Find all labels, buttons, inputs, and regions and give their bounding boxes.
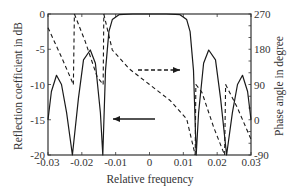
- x-tick-label: 0.01: [174, 156, 193, 168]
- y-tick-label: -10: [30, 79, 45, 91]
- y-tick-label: -5: [36, 43, 46, 55]
- y2-tick-label: 270: [254, 8, 271, 20]
- y-tick-label: 0: [40, 8, 46, 20]
- y2-tick-label: 90: [254, 79, 266, 91]
- chart-svg: -0.03-0.02-0.0100.010.020.030-5-10-15-20…: [0, 0, 300, 189]
- x-tick-label: -0.01: [104, 156, 127, 168]
- y2-tick-label: 180: [254, 43, 271, 55]
- axis-ticks: -0.03-0.02-0.0100.010.020.030-5-10-15-20…: [30, 8, 271, 168]
- x-axis-title: Relative frequency: [106, 173, 193, 186]
- y2-tick-label: -90: [254, 149, 269, 161]
- y-axis-title: Reflection coefficient in dB: [12, 22, 24, 150]
- axis-arrows: [113, 70, 180, 119]
- x-tick-label: 0.02: [208, 156, 227, 168]
- x-tick-label: 0: [147, 156, 153, 168]
- y-tick-label: -20: [30, 149, 45, 161]
- y2-tick-label: 0: [254, 114, 260, 126]
- y2-axis-title: Phase angle in degree: [273, 36, 286, 136]
- y-tick-label: -15: [30, 114, 45, 126]
- x-tick-label: -0.02: [70, 156, 93, 168]
- phase-curve: [48, 14, 251, 155]
